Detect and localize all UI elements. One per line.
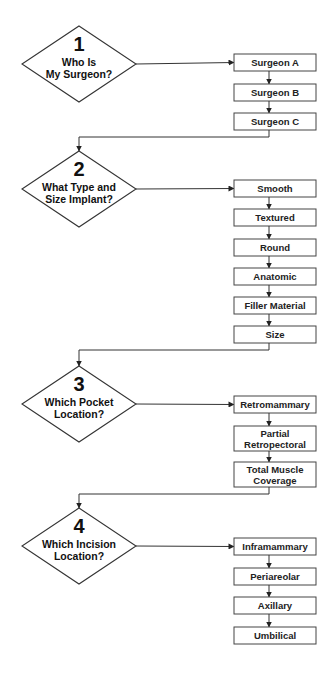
option-label: Periareolar	[250, 571, 300, 582]
question-text-1: My Surgeon?	[46, 68, 113, 80]
arrow-to-options-2	[136, 189, 234, 190]
option-label: Size	[265, 329, 284, 340]
option-label: Textured	[255, 212, 295, 223]
flowchart: 1Who IsMy Surgeon?Surgeon ASurgeon BSurg…	[0, 0, 335, 675]
option-label: Retropectoral	[244, 439, 306, 450]
step-number-3: 3	[73, 373, 84, 395]
arrow-to-options-1	[136, 63, 234, 65]
connector-to-step-3	[79, 343, 269, 366]
step-number-1: 1	[73, 33, 84, 55]
option-label: Coverage	[253, 475, 296, 486]
question-text-3: Location?	[54, 408, 104, 420]
option-label: Surgeon C	[251, 116, 299, 127]
option-label: Axillary	[258, 600, 293, 611]
arrow-to-options-3	[136, 404, 234, 405]
connector-to-step-2	[79, 130, 269, 151]
question-text-4: Which Incision	[42, 538, 116, 550]
option-label: Total Muscle	[247, 464, 304, 475]
option-label: Smooth	[257, 183, 293, 194]
option-label: Surgeon A	[251, 57, 299, 68]
connector-to-step-4	[79, 487, 269, 508]
option-label: Umbilical	[254, 630, 296, 641]
option-label: Retromammary	[240, 399, 310, 410]
option-label: Inframammary	[242, 541, 308, 552]
option-label: Surgeon B	[251, 87, 299, 98]
question-text-3: Which Pocket	[45, 396, 114, 408]
step-number-4: 4	[73, 515, 85, 537]
option-label: Round	[260, 242, 290, 253]
option-label: Partial	[260, 428, 289, 439]
arrow-to-options-4	[136, 546, 234, 547]
option-label: Filler Material	[244, 300, 305, 311]
question-text-2: What Type and	[42, 181, 116, 193]
question-text-2: Size Implant?	[45, 193, 113, 205]
step-number-2: 2	[73, 158, 84, 180]
option-label: Anatomic	[253, 271, 296, 282]
question-text-4: Location?	[54, 550, 104, 562]
question-text-1: Who Is	[62, 56, 97, 68]
